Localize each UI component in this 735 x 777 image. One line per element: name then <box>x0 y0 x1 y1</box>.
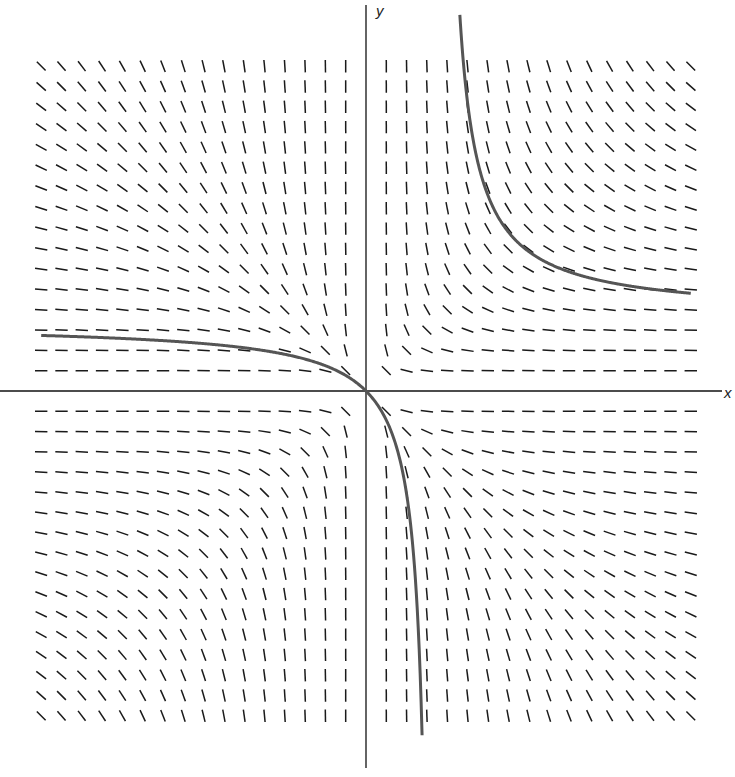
slope-segment <box>76 247 88 250</box>
slope-segment <box>485 568 490 579</box>
slope-segment <box>465 528 471 539</box>
slope-segment <box>76 571 87 576</box>
slope-segment <box>487 80 489 92</box>
slope-segment <box>219 266 229 273</box>
slope-segment <box>181 81 185 93</box>
slope-segment <box>243 121 246 133</box>
slope-segment <box>55 309 67 310</box>
slope-segment <box>665 165 676 171</box>
slope-segment <box>281 284 288 294</box>
slope-segment <box>583 288 595 291</box>
slope-segment <box>467 689 468 701</box>
slope-segment <box>55 492 67 493</box>
slope-segment <box>423 326 432 335</box>
slope-segment <box>543 350 555 351</box>
slope-segment <box>201 609 207 620</box>
slope-segment <box>137 471 149 473</box>
slope-segment <box>447 60 448 72</box>
slope-segment <box>606 690 613 700</box>
slope-segment <box>264 649 266 661</box>
slope-segment <box>179 569 188 578</box>
slope-segment <box>427 649 428 661</box>
slope-segment <box>524 224 533 233</box>
slope-segment <box>503 266 513 273</box>
slope-segment <box>159 610 167 620</box>
slope-segment <box>197 451 209 453</box>
slope-segment <box>447 628 448 640</box>
slope-segment <box>545 609 552 619</box>
slope-segment <box>279 411 291 412</box>
slope-segment <box>57 711 65 720</box>
slope-segment <box>305 669 306 681</box>
slope-segment <box>626 82 633 92</box>
slope-segment <box>198 308 210 311</box>
slope-segment <box>201 629 206 640</box>
slope-segment <box>666 671 675 679</box>
slope-segment <box>467 649 469 661</box>
slope-segment <box>117 531 129 535</box>
slope-segment <box>197 431 209 432</box>
slope-segment <box>426 588 427 600</box>
slope-segment <box>644 268 656 270</box>
slope-segment <box>76 532 88 535</box>
slope-segment <box>406 527 407 539</box>
slope-segment <box>441 370 453 371</box>
slope-segment <box>76 268 88 270</box>
slope-segment <box>299 348 310 353</box>
slope-segment <box>35 572 47 576</box>
slope-segment <box>527 81 530 93</box>
slope-segment <box>279 370 291 371</box>
slope-segment <box>304 202 305 214</box>
slope-segment <box>646 102 655 111</box>
slope-segment <box>279 449 290 455</box>
slope-segment <box>665 631 675 638</box>
slope-segment <box>644 571 655 576</box>
slope-segment <box>644 247 656 250</box>
slope-segment <box>423 448 432 457</box>
slope-segment <box>466 182 469 194</box>
slope-segment <box>263 568 267 580</box>
slope-segment <box>35 186 47 191</box>
slope-segment <box>483 508 492 517</box>
slope-segment <box>401 369 413 372</box>
slope-segment <box>563 309 575 311</box>
slope-segment <box>304 263 307 275</box>
slope-segment <box>218 431 230 432</box>
slope-segment <box>666 711 674 720</box>
slope-segment <box>586 81 592 92</box>
slope-segment <box>665 572 677 576</box>
slope-segment <box>57 691 66 700</box>
slope-segment <box>116 309 128 310</box>
slope-segment <box>116 330 128 331</box>
slope-segment <box>543 246 554 252</box>
slope-segment <box>607 710 613 721</box>
slope-segment <box>646 671 655 680</box>
slope-segment <box>646 61 654 71</box>
slope-segment <box>260 488 269 497</box>
slope-segment <box>665 227 677 230</box>
slope-segment <box>464 264 471 274</box>
slope-segment <box>218 451 230 453</box>
slope-segment <box>506 162 511 174</box>
slope-segment <box>305 628 306 640</box>
slope-segment <box>606 650 614 659</box>
slope-segment <box>626 711 633 721</box>
slope-segment <box>198 471 210 474</box>
x-axis-label: x <box>724 384 732 401</box>
slope-segment <box>402 427 411 436</box>
slope-segment <box>665 611 676 617</box>
slope-segment <box>463 488 472 497</box>
slope-segment <box>546 122 551 133</box>
slope-segment <box>685 186 697 191</box>
slope-segment <box>345 304 346 316</box>
slope-segment <box>221 568 227 579</box>
slope-segment <box>219 509 229 516</box>
slope-segment <box>504 529 513 538</box>
solution-curve <box>41 335 422 735</box>
slope-segment <box>503 490 514 496</box>
slope-segment <box>402 346 411 355</box>
slope-segment <box>57 62 65 71</box>
slope-segment <box>645 631 655 638</box>
slope-segment <box>76 492 88 494</box>
slope-segment <box>220 224 228 234</box>
